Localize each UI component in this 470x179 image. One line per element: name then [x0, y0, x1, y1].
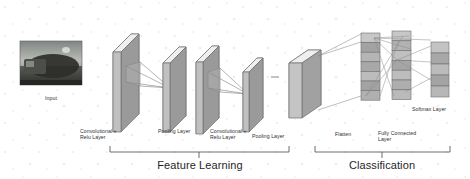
fc-column-2 [392, 31, 411, 100]
pool1-label: Pooling Layer [158, 128, 204, 134]
pool1-block [163, 47, 186, 132]
fully-connected-label: Fully Connected Layer [378, 130, 430, 143]
fc-column-1 [361, 33, 380, 100]
softmax-column [431, 42, 449, 97]
pool2-label: Pooling Layer [252, 133, 298, 139]
softmax-label: Softmax Layer [412, 106, 464, 112]
cnn-architecture-diagram [0, 0, 470, 179]
pool2-block [243, 58, 263, 132]
input-label: Input [20, 95, 82, 101]
classification-heading: Classification [326, 159, 438, 171]
flatten-block [289, 50, 321, 118]
conv1-label: Convolutional + Relu Layer [80, 128, 138, 141]
flatten-label: Flatten [335, 131, 365, 137]
feature-learning-heading: Feature Learning [134, 159, 266, 171]
input-thumbnail [20, 41, 82, 85]
